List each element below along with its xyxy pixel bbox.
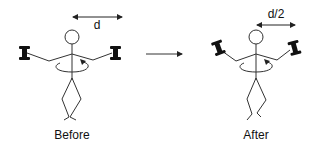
right-arm xyxy=(72,53,112,60)
after-figure xyxy=(211,25,302,120)
dumbbell-icon-right xyxy=(287,40,301,56)
left-arm xyxy=(222,51,256,61)
left-leg xyxy=(62,78,72,120)
after-caption: After xyxy=(243,128,268,142)
dumbbell-icon-left xyxy=(211,39,226,56)
left-arm xyxy=(27,53,72,61)
diagram-canvas: d d/2 Before After xyxy=(0,0,317,146)
distance-label-before: d xyxy=(94,18,101,32)
distance-label-after: d/2 xyxy=(268,7,285,21)
left-leg xyxy=(247,78,256,120)
right-leg xyxy=(70,78,81,120)
head xyxy=(65,30,79,44)
before-figure xyxy=(19,17,122,120)
right-arm xyxy=(256,50,290,60)
right-leg xyxy=(256,78,266,117)
before-caption: Before xyxy=(54,128,90,142)
head xyxy=(249,30,263,44)
